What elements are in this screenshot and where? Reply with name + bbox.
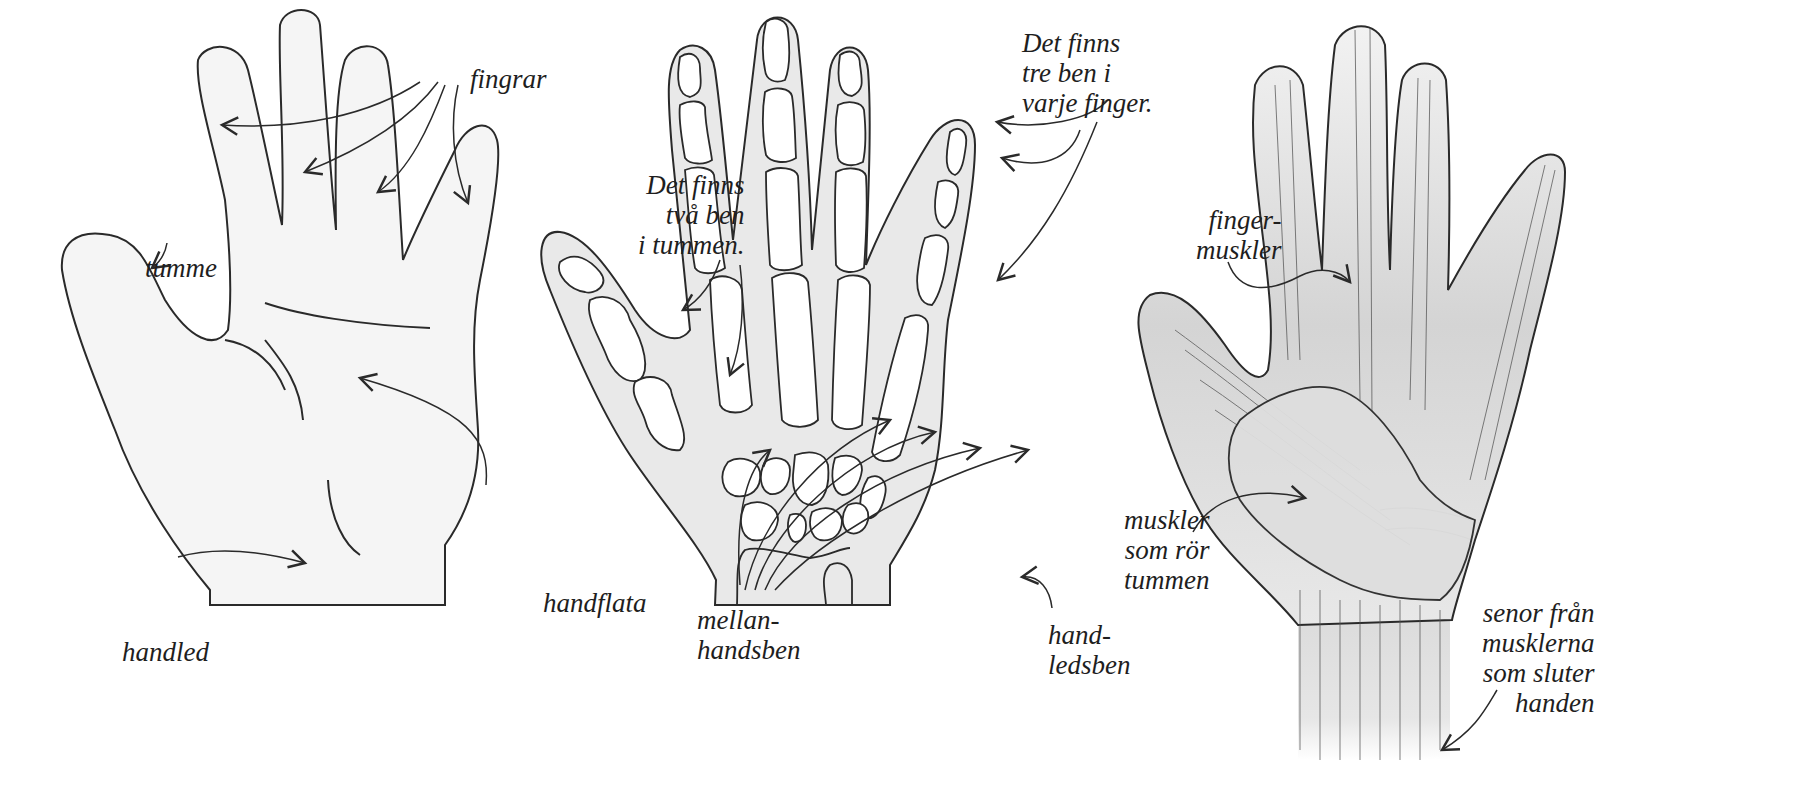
label-fingers: fingrar <box>470 64 547 94</box>
label-finger-muscles: finger- muskler <box>1196 205 1281 265</box>
label-tendons: senor från musklerna som sluter handen <box>1482 598 1594 718</box>
label-thumb-muscles: muskler som rör tummen <box>1124 505 1209 595</box>
label-metacarpals: mellan- handsben <box>697 605 801 665</box>
label-carpals: hand- ledsben <box>1048 620 1130 680</box>
label-wrist: handled <box>122 637 209 667</box>
label-thumb: tumme <box>145 253 217 283</box>
hand-outline-drawing <box>62 10 498 605</box>
label-palm: handflata <box>543 588 647 618</box>
label-two-bones-in-thumb: Det finns två ben i tummen. <box>638 170 744 260</box>
label-three-bones-per-finger: Det finns tre ben i varje finger. <box>1022 28 1152 118</box>
